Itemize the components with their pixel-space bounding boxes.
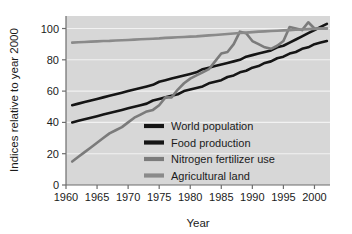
legend-label-1: Food production bbox=[171, 137, 251, 149]
chart-figure: 020406080100 196019651970197519801985199… bbox=[0, 0, 352, 234]
x-tick-label-2000: 2000 bbox=[302, 191, 326, 203]
x-tick-label-1985: 1985 bbox=[209, 191, 233, 203]
y-tick-label-0: 0 bbox=[53, 179, 59, 191]
x-tick-label-1965: 1965 bbox=[85, 191, 109, 203]
legend-label-3: Agricultural land bbox=[171, 170, 250, 182]
x-axis-title: Year bbox=[186, 217, 209, 229]
x-tick-label-1960: 1960 bbox=[54, 191, 78, 203]
x-tick-label-1980: 1980 bbox=[178, 191, 202, 203]
y-axis-title: Indices relative to year 2000 bbox=[8, 28, 20, 172]
x-tick-label-1970: 1970 bbox=[116, 191, 140, 203]
legend-label-2: Nitrogen fertilizer use bbox=[171, 153, 275, 165]
y-tick-label-100: 100 bbox=[41, 23, 59, 35]
line-chart: 020406080100 196019651970197519801985199… bbox=[0, 0, 352, 234]
x-tick-label-1990: 1990 bbox=[240, 191, 264, 203]
legend-label-0: World population bbox=[171, 120, 253, 132]
y-tick-label-40: 40 bbox=[47, 116, 59, 128]
y-tick-label-80: 80 bbox=[47, 54, 59, 66]
y-tick-label-60: 60 bbox=[47, 85, 59, 97]
x-tick-label-1975: 1975 bbox=[147, 191, 171, 203]
x-tick-label-1995: 1995 bbox=[271, 191, 295, 203]
y-tick-label-20: 20 bbox=[47, 148, 59, 160]
